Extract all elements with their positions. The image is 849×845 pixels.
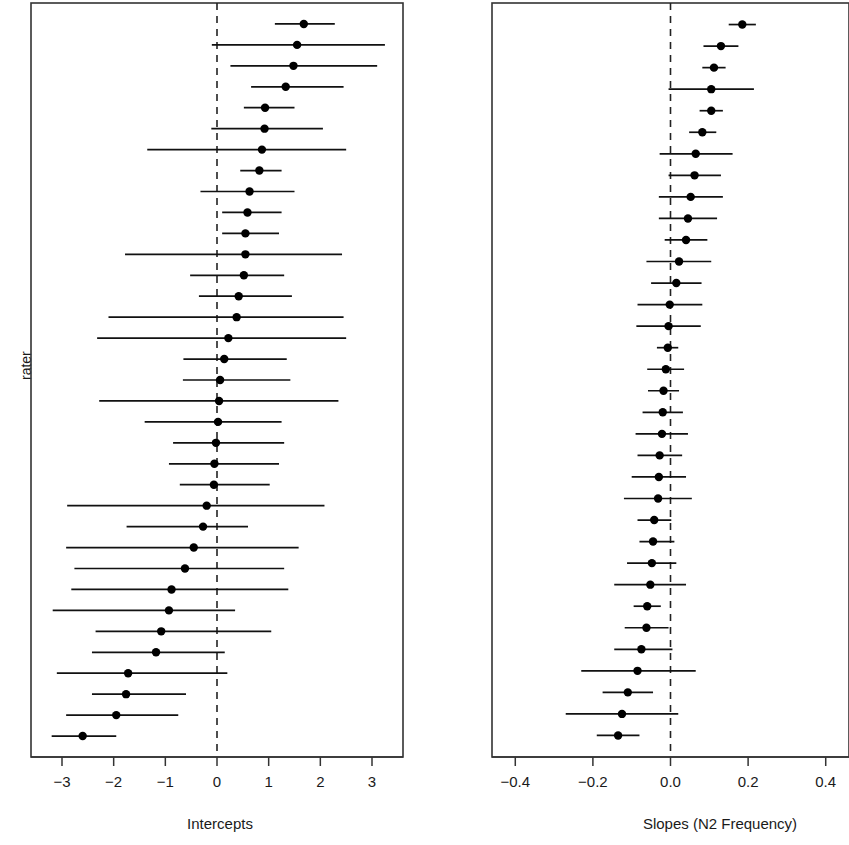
estimate-point bbox=[655, 473, 663, 481]
x-tick-label: −2 bbox=[105, 773, 122, 790]
estimate-point bbox=[648, 559, 656, 567]
estimate-point bbox=[212, 439, 220, 447]
x-tick-label: 0.0 bbox=[660, 773, 681, 790]
estimate-point bbox=[643, 602, 651, 610]
estimate-point bbox=[241, 229, 249, 237]
estimate-point bbox=[692, 150, 700, 158]
estimate-row bbox=[211, 124, 323, 132]
estimate-row bbox=[614, 645, 672, 653]
estimate-row bbox=[638, 451, 683, 459]
estimate-point bbox=[124, 669, 132, 677]
x-tick-label: −3 bbox=[53, 773, 70, 790]
estimate-row bbox=[639, 537, 674, 545]
estimate-row bbox=[700, 107, 723, 115]
estimate-row bbox=[646, 257, 711, 265]
estimate-point bbox=[646, 580, 654, 588]
estimate-point bbox=[152, 648, 160, 656]
estimate-row bbox=[648, 387, 679, 395]
estimate-row bbox=[634, 602, 661, 610]
x-tick-label: 0.4 bbox=[815, 773, 836, 790]
intercepts-axis-title: Intercepts bbox=[140, 815, 300, 832]
estimate-row bbox=[636, 322, 700, 330]
estimate-row bbox=[99, 397, 338, 405]
intercepts-panel: −3−2−10123 bbox=[0, 0, 430, 790]
estimate-row bbox=[643, 408, 683, 416]
estimate-point bbox=[717, 42, 725, 50]
x-tick-label: 0 bbox=[213, 773, 221, 790]
estimate-point bbox=[684, 214, 692, 222]
estimate-row bbox=[199, 292, 292, 300]
estimate-row bbox=[702, 63, 725, 71]
estimate-point bbox=[633, 667, 641, 675]
estimate-row bbox=[183, 376, 290, 384]
forest-plot-figure: rater −3−2−10123 Intercepts −0.4−0.20.00… bbox=[0, 0, 849, 845]
estimate-point bbox=[289, 62, 297, 70]
x-tick-label: 2 bbox=[316, 773, 324, 790]
estimate-row bbox=[566, 710, 679, 718]
estimate-row bbox=[145, 418, 282, 426]
estimate-row bbox=[647, 365, 684, 373]
estimate-row bbox=[92, 690, 186, 698]
slopes-panel: −0.4−0.20.00.20.4 bbox=[470, 0, 849, 790]
estimate-point bbox=[202, 501, 210, 509]
estimate-row bbox=[581, 667, 695, 675]
estimate-point bbox=[199, 522, 207, 530]
estimate-point bbox=[649, 537, 657, 545]
estimate-point bbox=[655, 451, 663, 459]
estimate-point bbox=[241, 250, 249, 258]
estimate-row bbox=[222, 208, 281, 216]
slopes-axis-title: Slopes (N2 Frequency) bbox=[590, 815, 849, 832]
estimate-point bbox=[258, 145, 266, 153]
x-tick-label: −0.4 bbox=[500, 773, 530, 790]
estimate-point bbox=[675, 257, 683, 265]
estimate-point bbox=[707, 107, 715, 115]
estimate-point bbox=[672, 279, 680, 287]
estimate-point bbox=[659, 387, 667, 395]
estimate-row bbox=[230, 62, 377, 70]
estimate-row bbox=[689, 128, 716, 136]
estimate-row bbox=[624, 494, 692, 502]
estimate-row bbox=[52, 732, 117, 740]
estimate-row bbox=[96, 627, 272, 635]
estimate-point bbox=[190, 543, 198, 551]
estimate-point bbox=[664, 343, 672, 351]
estimate-point bbox=[215, 397, 223, 405]
intercepts-plot-area: −3−2−10123 bbox=[0, 0, 430, 790]
estimate-row bbox=[180, 481, 270, 489]
estimate-point bbox=[293, 41, 301, 49]
slopes-plot-area: −0.4−0.20.00.20.4 bbox=[470, 0, 849, 790]
estimate-point bbox=[243, 208, 251, 216]
estimate-point bbox=[216, 376, 224, 384]
estimate-row bbox=[251, 83, 343, 91]
estimate-row bbox=[638, 300, 703, 308]
estimate-row bbox=[275, 20, 335, 28]
estimate-point bbox=[112, 711, 120, 719]
estimate-point bbox=[157, 627, 165, 635]
estimate-row bbox=[183, 355, 286, 363]
estimate-row bbox=[92, 648, 225, 656]
estimate-row bbox=[659, 214, 717, 222]
estimate-point bbox=[686, 193, 694, 201]
estimate-point bbox=[618, 710, 626, 718]
estimate-point bbox=[220, 355, 228, 363]
estimate-row bbox=[636, 430, 688, 438]
estimate-point bbox=[232, 313, 240, 321]
estimate-point bbox=[122, 690, 130, 698]
estimate-point bbox=[614, 731, 622, 739]
x-tick-label: −0.2 bbox=[578, 773, 608, 790]
estimate-point bbox=[707, 85, 715, 93]
estimate-row bbox=[669, 171, 721, 179]
estimate-point bbox=[666, 300, 674, 308]
estimate-row bbox=[66, 543, 299, 551]
estimate-row bbox=[703, 42, 738, 50]
estimate-point bbox=[682, 236, 690, 244]
estimate-row bbox=[169, 460, 279, 468]
estimate-point bbox=[261, 104, 269, 112]
estimate-row bbox=[222, 229, 279, 237]
estimate-point bbox=[690, 171, 698, 179]
estimate-row bbox=[71, 585, 288, 593]
estimate-row bbox=[173, 439, 284, 447]
estimate-row bbox=[74, 564, 284, 572]
estimate-point bbox=[214, 418, 222, 426]
estimate-row bbox=[627, 559, 676, 567]
